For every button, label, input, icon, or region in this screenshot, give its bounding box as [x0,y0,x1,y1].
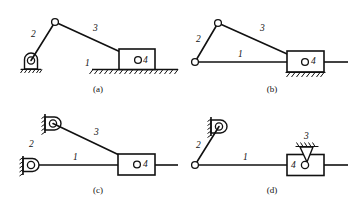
panel-a-pivot-hatching [21,70,43,74]
panel-a-label-crank: 2 [31,29,36,39]
panel-a-label-coupler: 3 [92,23,98,33]
panel-b-label-slider: 4 [311,56,316,66]
panel-b: 2 3 1 4 (b) [192,20,348,94]
panel-c-caption: (c) [93,185,103,195]
panel-d-block-pivot-joint [301,161,308,168]
panel-d-caption: (d) [267,185,278,195]
panel-b-caption: (b) [267,84,278,94]
figure-root: 2 3 1 4 (a) [0,0,364,205]
panel-c: 2 3 1 4 (c) [20,114,179,195]
panel-b-label-frame: 1 [238,49,243,59]
panel-d-fixed-pivot [208,117,228,138]
panel-d: 2 3 1 4 (d) [192,117,348,195]
panel-d-label-frame: 1 [243,152,248,162]
panel-b-ground-hatching [287,73,325,78]
panel-a-fixed-pivot [21,53,43,73]
panel-c-lower-joint [27,161,34,168]
panel-a: 2 3 1 4 (a) [21,19,179,94]
panel-d-label-coupler: 3 [303,131,309,141]
panel-b-top-joint [215,20,222,27]
panel-c-label-coupler: 3 [93,127,99,137]
panel-b-ground-joint [192,59,199,66]
panel-a-label-slider: 4 [143,55,148,65]
panel-d-label-slider: 4 [291,160,296,170]
panel-a-crank-link [31,22,55,61]
panel-a-top-joint [52,19,59,26]
panel-a-slider-pin [135,57,142,64]
mechanism-diagram: 2 3 1 4 (a) [0,0,364,205]
panel-a-caption: (a) [93,84,103,94]
panel-c-label-slider: 4 [143,159,148,169]
panel-b-label-crank: 2 [196,34,201,44]
panel-c-slider-pin [134,161,141,168]
panel-c-upper-fixed-pivot [42,114,62,135]
panel-b-label-coupler: 3 [259,23,265,33]
panel-c-label-crank: 2 [29,139,34,149]
panel-c-label-frame: 1 [73,152,78,162]
panel-d-frame-joint [192,162,199,169]
panel-b-slider-pin [302,59,309,66]
panel-c-lower-fixed-pivot [20,156,40,176]
panel-d-label-crank: 2 [196,140,201,150]
panel-a-label-frame: 1 [85,58,90,68]
